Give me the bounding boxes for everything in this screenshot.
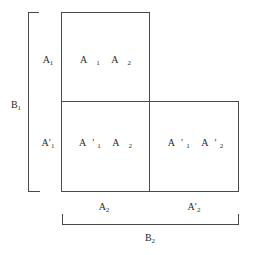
row-label-a1-prime: A′1 (42, 138, 55, 150)
row-label-a1: A1 (43, 55, 54, 67)
col-label-a2-prime: A′2 (188, 202, 201, 214)
b1-label: B1 (11, 100, 21, 112)
col-label-a2: A2 (99, 202, 110, 214)
cell-bottom-right-label: A′1 A′2 (162, 138, 226, 150)
cell-top-left-label: A1 A2 (74, 55, 134, 67)
b2-label: B2 (145, 233, 155, 245)
cell-bottom-left-label: A′1 A2 (73, 138, 135, 150)
